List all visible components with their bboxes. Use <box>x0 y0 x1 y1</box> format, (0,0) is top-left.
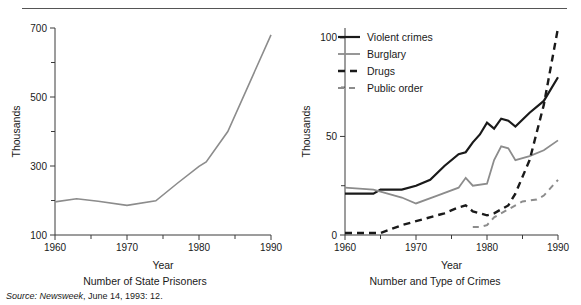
x-tick-label: 1980 <box>188 242 211 253</box>
top-divider-rule <box>22 8 567 9</box>
source-rest: , June 14, 1993: 12. <box>83 291 163 301</box>
chart-panel-crimes: 0501001960197019801990YearThousandsViole… <box>290 14 580 274</box>
chart-panel-state-prisoners: 1003005007001960197019801990YearThousand… <box>0 14 290 274</box>
x-tick-label: 1990 <box>260 242 283 253</box>
caption-crimes: Number and Type of Crimes <box>290 275 580 287</box>
legend-label-2: Drugs <box>367 65 395 77</box>
series-line-burglary <box>345 140 558 203</box>
legend-label-0: Violent crimes <box>367 31 433 43</box>
source-prefix: Source: <box>6 291 37 301</box>
x-axis-title: Year <box>152 259 174 271</box>
x-tick-label: 1960 <box>44 242 67 253</box>
x-tick-label: 1970 <box>405 242 428 253</box>
x-tick-label: 1980 <box>476 242 499 253</box>
y-tick-label: 50 <box>326 131 338 142</box>
y-axis-title: Thousands <box>300 106 312 158</box>
series-line-public-order <box>473 180 558 227</box>
y-tick-label: 500 <box>30 92 47 103</box>
x-axis-title: Year <box>441 259 463 271</box>
source-note: Source: Newsweek, June 14, 1993: 12. <box>6 291 163 301</box>
crimes-chart-svg: 0501001960197019801990YearThousandsViole… <box>290 14 580 274</box>
x-tick-label: 1960 <box>334 242 357 253</box>
source-publication: Newsweek <box>40 291 84 301</box>
x-tick-label: 1970 <box>116 242 139 253</box>
legend-label-1: Burglary <box>367 48 407 60</box>
y-tick-label: 100 <box>320 32 337 43</box>
series-line-state-prisoners <box>55 35 271 205</box>
y-tick-label: 100 <box>30 230 47 241</box>
y-tick-label: 0 <box>331 230 337 241</box>
legend-label-3: Public order <box>367 82 424 94</box>
axis-frame <box>55 28 271 235</box>
state-prisoners-chart-svg: 1003005007001960197019801990YearThousand… <box>0 14 290 274</box>
y-axis-title: Thousands <box>10 106 22 158</box>
y-tick-label: 300 <box>30 161 47 172</box>
series-line-violent-crimes <box>345 77 558 193</box>
figure-container: 1003005007001960197019801990YearThousand… <box>0 0 581 305</box>
caption-state-prisoners: Number of State Prisoners <box>0 275 290 287</box>
x-tick-label: 1990 <box>547 242 570 253</box>
y-tick-label: 700 <box>30 23 47 34</box>
